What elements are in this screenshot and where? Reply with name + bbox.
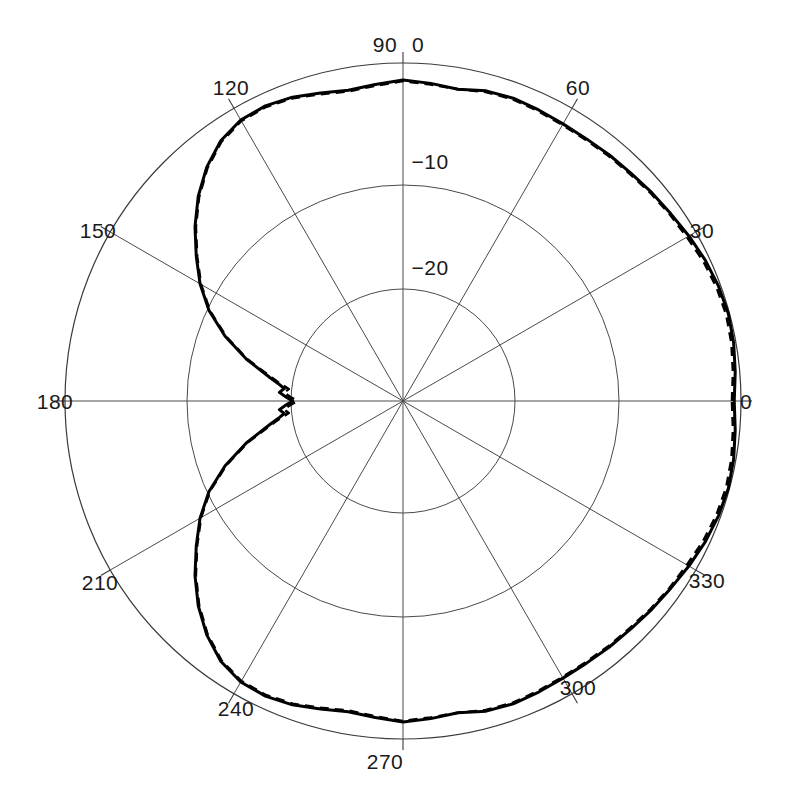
angle-tick-labels: 0306090120150180210240270300330 bbox=[37, 33, 752, 773]
polar-plot-svg: 0306090120150180210240270300330 0−10−20 bbox=[0, 0, 786, 802]
grid-spoke-330 bbox=[403, 401, 696, 570]
angle-label-240: 240 bbox=[218, 697, 255, 720]
polar-chart-container: 0306090120150180210240270300330 0−10−20 bbox=[0, 0, 786, 802]
grid-spoke-150 bbox=[110, 232, 403, 401]
angle-tick-120 bbox=[229, 99, 235, 109]
angle-label-180: 180 bbox=[37, 390, 74, 413]
angle-label-120: 120 bbox=[213, 76, 250, 99]
grid-spoke-210 bbox=[110, 401, 403, 570]
angle-label-330: 330 bbox=[689, 569, 726, 592]
grid-spoke-120 bbox=[234, 108, 403, 401]
radial-label-0: 0 bbox=[412, 33, 424, 56]
grid-spoke-240 bbox=[234, 401, 403, 694]
radial-tick-labels: 0−10−20 bbox=[411, 33, 448, 279]
angle-tick-60 bbox=[572, 99, 578, 109]
radial-label--10: −10 bbox=[411, 150, 448, 173]
angle-label-270: 270 bbox=[367, 750, 404, 773]
angle-label-0: 0 bbox=[740, 390, 752, 413]
angle-label-300: 300 bbox=[560, 676, 597, 699]
grid-spokes bbox=[65, 63, 741, 739]
angle-label-60: 60 bbox=[566, 76, 590, 99]
grid-spoke-300 bbox=[403, 401, 572, 694]
angle-label-30: 30 bbox=[690, 219, 714, 242]
radial-label--20: −20 bbox=[411, 256, 448, 279]
angle-label-210: 210 bbox=[82, 571, 119, 594]
angle-label-90: 90 bbox=[373, 33, 397, 56]
angle-label-150: 150 bbox=[80, 219, 117, 242]
